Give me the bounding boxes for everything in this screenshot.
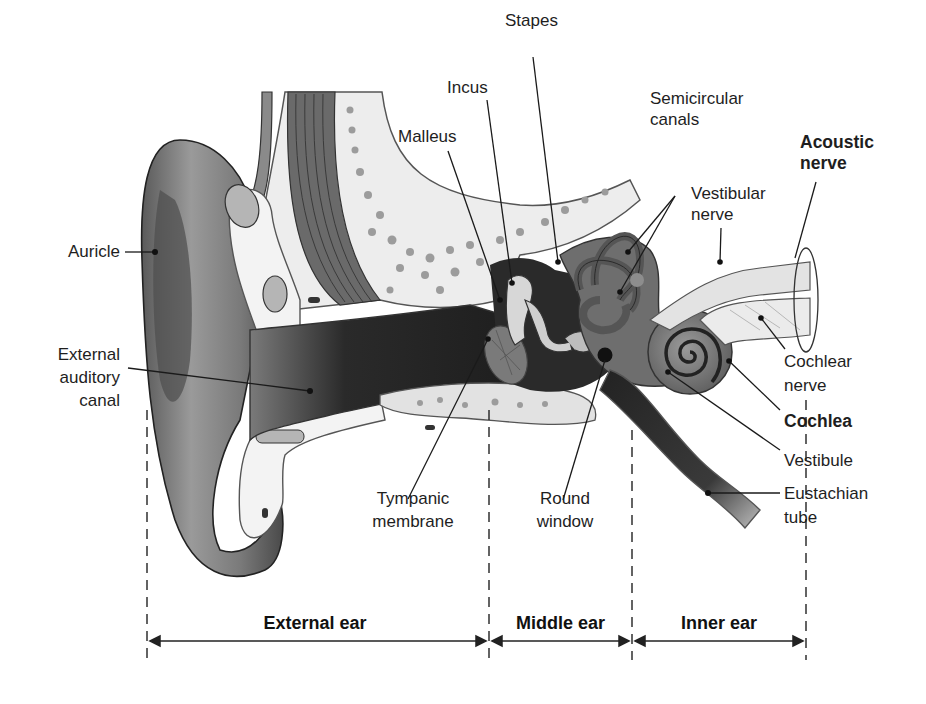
label-malleus: Malleus bbox=[398, 126, 457, 147]
region-external-ear: External ear bbox=[200, 613, 430, 634]
label-round-window: Round window bbox=[520, 487, 610, 533]
label-vestibular-nerve: Vestibular nerve bbox=[691, 183, 766, 225]
label-external-auditory-canal: External auditory canal bbox=[20, 343, 120, 412]
label-acoustic-nerve: Acoustic nerve bbox=[800, 132, 874, 174]
label-auricle: Auricle bbox=[50, 241, 120, 262]
label-incus: Incus bbox=[447, 77, 488, 98]
region-inner-ear: Inner ear bbox=[637, 613, 801, 634]
label-cochlear-nerve: Cochlear nerve bbox=[784, 350, 852, 398]
label-semicircular-canals: Semicircular canals bbox=[650, 88, 744, 130]
label-tympanic-membrane: Tympanic membrane bbox=[358, 487, 468, 533]
label-eustachian-tube: Eustachian tube bbox=[784, 482, 868, 530]
region-arrows bbox=[150, 636, 803, 646]
eustachian-tube-shape bbox=[600, 370, 760, 528]
label-stapes: Stapes bbox=[505, 10, 558, 31]
label-cochlea: Cochlea bbox=[784, 411, 852, 432]
label-vestibule: Vestibule bbox=[784, 450, 853, 471]
region-middle-ear: Middle ear bbox=[494, 613, 627, 634]
